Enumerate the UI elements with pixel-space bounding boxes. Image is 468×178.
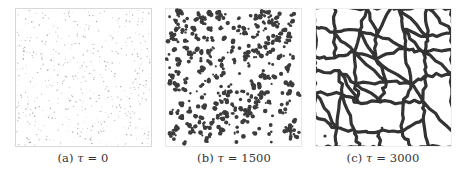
network-field-image bbox=[315, 8, 452, 147]
tau-symbol: τ bbox=[77, 151, 83, 165]
caption-c: (c) τ = 3000 bbox=[303, 151, 463, 165]
panel-a-tau-0 bbox=[15, 8, 152, 147]
tau-symbol: τ bbox=[217, 151, 223, 165]
caption-label: (c) bbox=[347, 151, 363, 165]
panel-c-tau-3000 bbox=[315, 8, 452, 147]
equals-sign: = bbox=[228, 151, 238, 165]
tau-symbol: τ bbox=[366, 151, 372, 165]
equals-sign: = bbox=[376, 151, 386, 165]
panel-b-tau-1500 bbox=[165, 8, 302, 147]
caption-value: 3000 bbox=[390, 151, 420, 165]
equals-sign: = bbox=[88, 151, 98, 165]
caption-b: (b) τ = 1500 bbox=[154, 151, 314, 165]
particle-field-image bbox=[15, 8, 152, 147]
caption-a: (a) τ = 0 bbox=[3, 151, 163, 165]
cluster-field-image bbox=[165, 8, 302, 147]
caption-label: (b) bbox=[197, 151, 214, 165]
caption-value: 0 bbox=[101, 151, 108, 165]
caption-value: 1500 bbox=[241, 151, 271, 165]
caption-label: (a) bbox=[57, 151, 73, 165]
